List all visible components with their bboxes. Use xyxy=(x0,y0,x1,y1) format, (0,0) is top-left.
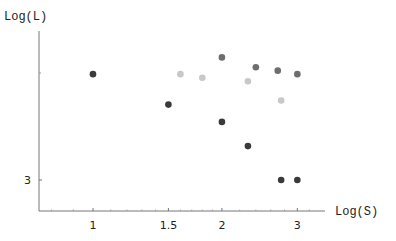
axes xyxy=(39,31,325,211)
data-point xyxy=(165,101,172,108)
data-point xyxy=(219,54,226,61)
data-point xyxy=(253,64,260,71)
data-point xyxy=(245,78,252,85)
series-light xyxy=(177,71,284,104)
scatter-chart: 11.5233 Log(L) Log(S) xyxy=(0,0,396,241)
data-point xyxy=(219,119,226,126)
series-medium xyxy=(219,54,301,77)
y-axis-label: Log(L) xyxy=(4,10,47,24)
data-point xyxy=(294,71,301,78)
series-dark xyxy=(90,71,301,183)
x-tick-label: 2 xyxy=(218,219,225,232)
data-point xyxy=(245,143,252,150)
x-tick-label: 1.5 xyxy=(160,219,178,232)
x-axis-label: Log(S) xyxy=(335,205,378,219)
x-tick-label: 3 xyxy=(294,219,301,232)
data-point xyxy=(199,74,206,81)
data-point xyxy=(294,177,301,184)
data-point xyxy=(278,177,285,184)
ticks: 11.5233 xyxy=(24,73,309,232)
data-points xyxy=(90,54,301,183)
data-point xyxy=(274,67,281,74)
x-tick-label: 1 xyxy=(90,219,97,232)
y-tick-label: 3 xyxy=(24,174,31,187)
data-point xyxy=(177,71,184,78)
data-point xyxy=(90,71,97,78)
data-point xyxy=(278,97,285,104)
